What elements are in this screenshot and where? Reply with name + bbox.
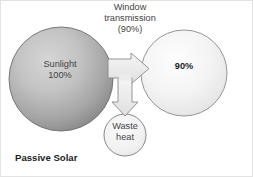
arrow-down-branch bbox=[112, 78, 138, 116]
window-transmission-line1: Window bbox=[87, 2, 173, 13]
sunlight-label-line1: Sunlight bbox=[21, 59, 99, 70]
transmitted-percent-label: 90% bbox=[159, 61, 209, 72]
sunlight-label: Sunlight 100% bbox=[21, 59, 99, 81]
figure-caption: Passive Solar bbox=[15, 152, 125, 163]
window-transmission-label: Window transmission (90%) bbox=[87, 2, 173, 35]
waste-heat-line1: Waste bbox=[102, 121, 148, 132]
sunlight-label-line2: 100% bbox=[21, 70, 99, 81]
window-transmission-line2: transmission bbox=[87, 13, 173, 24]
arrow-junction-patch bbox=[119, 75, 132, 81]
waste-heat-line2: heat bbox=[102, 132, 148, 143]
waste-heat-label: Waste heat bbox=[102, 121, 148, 143]
passive-solar-diagram: Window transmission (90%) Sunlight 100% … bbox=[0, 0, 253, 177]
transmitted-sphere bbox=[141, 30, 227, 116]
window-transmission-line3: (90%) bbox=[87, 24, 173, 35]
